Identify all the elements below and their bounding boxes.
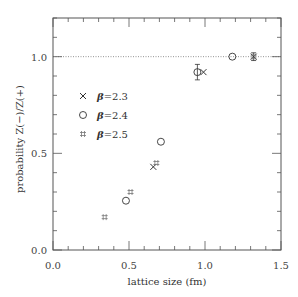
- circle-marker-icon: [229, 53, 236, 60]
- y-axis-label: probability Z(−)/Z(+): [14, 85, 25, 193]
- circle-marker-icon: [157, 138, 164, 145]
- legend-label: β=2.4: [96, 110, 128, 121]
- y-tick-label: 0.5: [31, 148, 47, 159]
- cross-marker-icon: [200, 69, 206, 75]
- x-tick-label: 1.0: [197, 260, 213, 271]
- hash-marker-icon: [80, 131, 86, 137]
- x-tick-label: 0.5: [121, 260, 137, 271]
- y-tick-label: 1.0: [31, 52, 47, 63]
- legend-item: β=2.4: [80, 110, 128, 121]
- legend-label: β=2.5: [96, 129, 128, 140]
- x-tick-label: 1.5: [273, 260, 289, 271]
- hash-marker-icon: [128, 189, 134, 195]
- cross-marker-icon: [80, 93, 86, 99]
- hash-marker-icon: [102, 214, 108, 220]
- circle-marker-icon: [80, 112, 87, 119]
- chart: 0.00.51.01.50.00.51.0lattice size (fm)pr…: [0, 0, 298, 297]
- legend-item: β=2.3: [80, 91, 128, 102]
- y-tick-label: 0.0: [31, 245, 47, 256]
- legend-label: β=2.3: [96, 91, 128, 102]
- x-tick-label: 0.0: [45, 260, 61, 271]
- series-x: [150, 53, 256, 170]
- plot-frame: [53, 18, 281, 250]
- legend-item: β=2.5: [80, 129, 128, 140]
- hash-marker-icon: [153, 160, 159, 166]
- x-axis-label: lattice size (fm): [128, 276, 207, 287]
- series-circle: [122, 53, 235, 204]
- circle-marker-icon: [122, 197, 129, 204]
- error-bar: [195, 64, 200, 79]
